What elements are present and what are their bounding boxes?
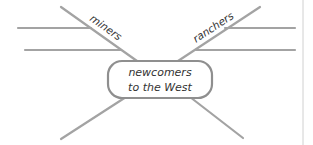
center-topic-line-1: newcomers: [128, 66, 192, 79]
web-diagram: miners ranchers newcomers to the West: [0, 0, 313, 145]
branch-miners: miners: [18, 7, 137, 61]
center-topic: newcomers to the West: [108, 61, 212, 98]
branch-lower-left-spoke: [61, 97, 126, 139]
branch-lower-right-spoke: [190, 97, 243, 138]
center-topic-line-2: to the West: [128, 81, 192, 94]
branch-ranchers: ranchers: [178, 7, 295, 61]
